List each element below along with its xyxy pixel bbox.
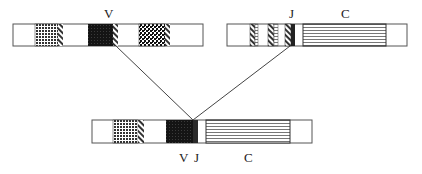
top-left-gene-bar <box>13 24 203 46</box>
bottom-c-label: C <box>244 150 253 165</box>
j-segment-gray <box>274 24 278 46</box>
v-segment-dotted <box>113 120 138 143</box>
j-segment-dark <box>193 120 198 143</box>
j-segment-hatch <box>250 24 255 46</box>
j-segment-hatch <box>285 24 291 46</box>
v-segment-dotted <box>35 24 58 46</box>
top-right-gene-bar <box>227 24 407 46</box>
v-segment-black <box>88 24 113 46</box>
top-c-label: C <box>341 6 350 21</box>
v-segment-black <box>166 120 193 143</box>
hatch-segment <box>58 24 63 46</box>
v-connector-line <box>116 46 193 120</box>
c-segment-lines <box>303 24 386 46</box>
recombination-diagram: V J C V J C <box>0 0 422 174</box>
c-segment-lines <box>206 120 290 143</box>
top-v-label: V <box>104 6 114 21</box>
bottom-rearranged-bar <box>92 120 312 143</box>
hatch-segment <box>165 24 170 46</box>
hatch-segment <box>138 120 144 143</box>
hatch-segment <box>113 24 118 46</box>
v-segment-grid <box>139 24 165 46</box>
j-segment-dark <box>291 24 295 46</box>
top-j-label: J <box>289 6 294 21</box>
j-segment-gray <box>255 24 258 46</box>
j-connector-line <box>193 46 290 120</box>
j-segment-hatch <box>268 24 274 46</box>
bottom-v-label: V <box>179 150 189 165</box>
bottom-j-label: J <box>194 150 199 165</box>
